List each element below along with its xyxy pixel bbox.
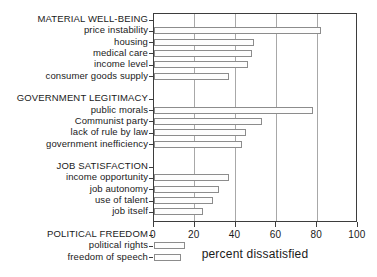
bar: [154, 118, 262, 125]
group-label: JOB SATISFACTION: [0, 161, 148, 171]
bar: [154, 107, 313, 114]
bar: [154, 186, 219, 193]
category-label: government inefficiency: [0, 139, 148, 149]
category-tick: [149, 53, 153, 54]
category-tick: [149, 212, 153, 213]
x-axis-tick-label: 20: [174, 229, 214, 241]
x-axis-tick-label: 60: [255, 229, 295, 241]
group-label: POLITICAL FREEDOM: [0, 229, 148, 239]
category-label: public morals: [0, 105, 148, 115]
category-label: housing: [0, 37, 148, 47]
x-axis-tick: [316, 222, 317, 227]
bar: [154, 174, 229, 181]
category-tick: [149, 20, 153, 21]
category-label: income opportunity: [0, 172, 148, 182]
category-tick: [149, 178, 153, 179]
category-label: medical care: [0, 48, 148, 58]
category-tick: [149, 42, 153, 43]
bar: [154, 141, 242, 148]
category-label: Communist party: [0, 116, 148, 126]
bar: [154, 208, 203, 215]
x-axis-tick: [357, 222, 358, 227]
x-axis-tick-label: 100: [337, 229, 377, 241]
group-label: GOVERNMENT LEGITIMACY: [0, 93, 148, 103]
x-axis-tick: [275, 222, 276, 227]
bar: [154, 197, 213, 204]
category-tick: [149, 167, 153, 168]
category-tick: [149, 99, 153, 100]
category-tick: [149, 110, 153, 111]
category-label: job autonomy: [0, 184, 148, 194]
category-label: lack of rule by law: [0, 127, 148, 137]
category-tick: [149, 76, 153, 77]
category-label: political rights: [0, 240, 148, 250]
x-axis-tick: [235, 222, 236, 227]
category-tick: [149, 121, 153, 122]
category-label: freedom of speech: [0, 252, 148, 262]
bar: [154, 50, 252, 57]
category-label: income level: [0, 59, 148, 69]
category-tick: [149, 65, 153, 66]
category-tick: [149, 144, 153, 145]
category-label: use of talent: [0, 195, 148, 205]
x-axis-tick: [194, 222, 195, 227]
x-axis-title: percent dissatisfied: [153, 247, 357, 261]
category-tick: [149, 31, 153, 32]
x-axis-tick-label: 80: [296, 229, 336, 241]
gridline-60: [276, 14, 277, 221]
category-label: consumer goods supply: [0, 71, 148, 81]
category-axis-labels: MATERIAL WELL-BEINGprice instabilityhous…: [0, 0, 148, 277]
category-label: price instability: [0, 25, 148, 35]
x-axis-tick: [153, 222, 154, 227]
group-label: MATERIAL WELL-BEING: [0, 14, 148, 24]
category-label: job itself: [0, 206, 148, 216]
category-tick: [149, 133, 153, 134]
bar: [154, 61, 248, 68]
x-axis-tick-label: 40: [215, 229, 255, 241]
bar: [154, 73, 229, 80]
bar: [154, 39, 254, 46]
bar: [154, 27, 321, 34]
category-tick: [149, 201, 153, 202]
bar: [154, 129, 246, 136]
gridline-80: [317, 14, 318, 221]
x-axis-tick-label: 0: [133, 229, 173, 241]
category-tick: [149, 189, 153, 190]
bar-chart: MATERIAL WELL-BEINGprice instabilityhous…: [0, 0, 377, 277]
